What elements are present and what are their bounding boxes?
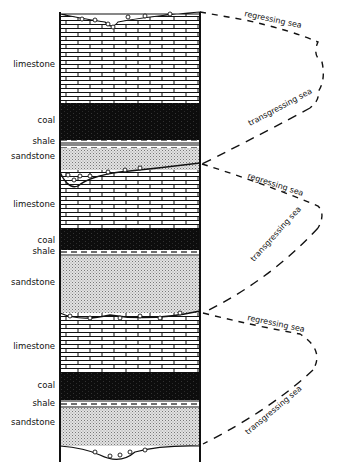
- sea-label: transgressing sea: [244, 384, 304, 437]
- regression-curve: [202, 164, 322, 228]
- pebble: [143, 14, 147, 18]
- pebble: [143, 448, 147, 452]
- rock-labels: limestonecoalshalesandstonelimestonecoal…: [11, 59, 55, 427]
- layer-coal: [60, 372, 200, 400]
- label-shale: shale: [32, 398, 55, 408]
- label-limestone: limestone: [13, 59, 55, 69]
- pebble: [66, 173, 70, 177]
- stratigraphic-column: [60, 12, 200, 462]
- label-sandstone: sandstone: [11, 277, 55, 287]
- pebble: [178, 311, 182, 315]
- sea-label: regressing sea: [246, 171, 304, 198]
- pebble: [88, 174, 92, 178]
- sea-level-curve: [200, 12, 323, 444]
- pebble: [88, 316, 92, 320]
- sea-label: transgressing sea: [247, 86, 314, 127]
- pebble: [93, 18, 97, 22]
- cyclothem-diagram: limestonecoalshalesandstonelimestonecoal…: [0, 0, 338, 473]
- layer-sandstone: [60, 148, 200, 170]
- pebble: [111, 25, 115, 29]
- pebble: [106, 170, 110, 174]
- pebble: [78, 174, 82, 178]
- layer-shale: [60, 140, 200, 148]
- layer-sandstone: [60, 256, 200, 313]
- label-coal: coal: [38, 380, 55, 390]
- pebble: [72, 178, 76, 182]
- layer-shale: [60, 250, 200, 256]
- label-limestone: limestone: [13, 341, 55, 351]
- pebble: [138, 314, 142, 318]
- transgression-curve: [203, 370, 313, 444]
- label-shale: shale: [32, 136, 55, 146]
- pebble: [126, 15, 130, 19]
- layer-limestone: [60, 14, 200, 103]
- pebble: [93, 450, 97, 454]
- pebble: [68, 314, 72, 318]
- layer-coal: [60, 103, 200, 140]
- label-limestone: limestone: [13, 199, 55, 209]
- label-shale: shale: [32, 246, 55, 256]
- layer-limestone: [60, 170, 200, 228]
- pebble: [106, 22, 110, 26]
- layer-shale: [60, 400, 200, 408]
- pebble: [123, 168, 127, 172]
- pebble: [128, 450, 132, 454]
- label-coal: coal: [38, 235, 55, 245]
- label-sandstone: sandstone: [11, 151, 55, 161]
- pebble: [138, 166, 142, 170]
- sea-label: transgressing sea: [249, 205, 303, 264]
- pebble: [80, 17, 84, 21]
- pebble: [158, 316, 162, 320]
- sea-labels: regressing seatransgressing searegressin…: [244, 9, 314, 436]
- pebble: [108, 454, 112, 458]
- pebble: [118, 453, 122, 457]
- transgression-curve: [203, 228, 318, 313]
- sea-label: regressing sea: [247, 313, 306, 334]
- pebble: [118, 316, 122, 320]
- pebble: [168, 12, 172, 16]
- layer-coal: [60, 228, 200, 250]
- label-coal: coal: [38, 115, 55, 125]
- layer-limestone: [60, 313, 200, 372]
- layer-sandstone: [60, 408, 200, 446]
- label-sandstone: sandstone: [11, 417, 55, 427]
